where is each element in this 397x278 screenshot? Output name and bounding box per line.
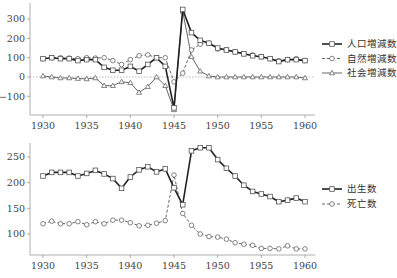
x-tick-label: 1930 — [31, 260, 55, 271]
data-point-marker — [189, 149, 194, 154]
data-point-marker — [84, 171, 89, 176]
data-point-marker — [41, 73, 46, 77]
data-point-marker — [128, 175, 133, 180]
data-point-marker — [163, 167, 168, 172]
x-tick-label: 1940 — [118, 120, 142, 131]
x-tick-label: 1960 — [293, 260, 317, 271]
data-point-marker — [146, 164, 151, 169]
data-point-marker — [242, 242, 247, 247]
data-point-marker — [111, 218, 116, 223]
legend-label: 人口増減数 — [347, 38, 397, 49]
data-point-marker — [268, 246, 273, 251]
data-point-marker — [277, 199, 282, 204]
data-point-marker — [215, 46, 220, 51]
data-point-marker — [242, 183, 247, 188]
y-tick-label: 200 — [7, 33, 25, 44]
data-point-marker — [119, 68, 124, 73]
data-point-marker — [128, 57, 133, 62]
data-point-marker — [294, 247, 299, 252]
data-point-marker — [102, 65, 107, 70]
x-tick-label: 1950 — [206, 260, 230, 271]
data-point-marker — [93, 168, 98, 173]
data-point-marker — [93, 75, 98, 79]
data-point-marker — [259, 54, 264, 59]
data-point-marker — [233, 240, 238, 245]
data-point-marker — [180, 211, 185, 216]
legend-marker — [330, 56, 335, 61]
data-point-marker — [277, 247, 282, 252]
data-point-marker — [67, 170, 72, 175]
data-point-marker — [207, 145, 212, 150]
data-point-marker — [285, 244, 290, 249]
data-point-marker — [294, 196, 299, 201]
data-point-marker — [76, 219, 81, 224]
data-point-marker — [128, 64, 133, 69]
data-point-marker — [172, 106, 177, 111]
y-tick-label: 200 — [7, 177, 25, 188]
legend-label: 自然増減数 — [347, 53, 397, 64]
data-point-marker — [198, 38, 203, 43]
data-point-marker — [67, 221, 72, 226]
bottom-chart: 100150200250 193019351940194519501955196… — [7, 143, 377, 271]
data-point-marker — [180, 7, 185, 12]
data-point-marker — [119, 79, 124, 83]
data-point-marker — [128, 220, 133, 225]
x-tick-label: 1940 — [118, 260, 142, 271]
data-point-marker — [180, 71, 185, 76]
x-tick-label: 1955 — [249, 260, 273, 271]
data-point-marker — [93, 57, 98, 62]
data-point-marker — [277, 59, 282, 64]
x-tick-label: 1955 — [249, 120, 273, 131]
data-point-marker — [84, 57, 89, 62]
data-point-marker — [198, 232, 203, 237]
data-point-marker — [102, 221, 107, 226]
x-tick-label: 1935 — [75, 120, 99, 131]
data-point-marker — [215, 157, 220, 162]
data-point-marker — [268, 56, 273, 61]
data-point-marker — [41, 174, 46, 179]
data-point-marker — [84, 222, 89, 227]
data-point-marker — [224, 48, 229, 53]
data-point-marker — [93, 219, 98, 224]
data-point-marker — [111, 58, 116, 63]
y-tick-label: 100 — [7, 52, 25, 63]
data-point-marker — [76, 58, 81, 63]
data-point-marker — [49, 55, 54, 60]
legend-item: 自然増減数 — [322, 53, 397, 64]
y-tick-label: 300 — [7, 13, 25, 24]
data-point-marker — [41, 56, 46, 61]
y-tick-label: 0 — [19, 71, 25, 82]
legend-marker — [330, 187, 335, 192]
data-point-marker — [285, 198, 290, 203]
data-point-marker — [233, 174, 238, 179]
data-point-marker — [137, 53, 142, 58]
top-legend: 人口増減数自然増減数社会増減数 — [322, 38, 397, 78]
data-point-marker — [146, 223, 151, 228]
data-point-marker — [250, 189, 255, 194]
top-chart: −1000100200300 1930193519401945195019551… — [0, 3, 397, 131]
data-point-marker — [294, 57, 299, 62]
data-point-marker — [285, 57, 290, 62]
data-point-marker — [163, 218, 168, 223]
data-point-marker — [119, 186, 124, 191]
data-point-marker — [49, 219, 54, 224]
data-point-marker — [154, 221, 159, 226]
data-point-marker — [41, 221, 46, 226]
data-point-marker — [242, 52, 247, 57]
data-point-marker — [189, 30, 194, 35]
chart-canvas: −1000100200300 1930193519401945195019551… — [0, 0, 397, 278]
y-tick-label: 150 — [7, 203, 25, 214]
data-point-marker — [189, 48, 194, 53]
legend-item: 人口増減数 — [322, 38, 397, 49]
y-tick-label: 100 — [7, 228, 25, 239]
legend-label: 死亡数 — [347, 198, 377, 209]
data-point-marker — [172, 186, 177, 191]
x-tick-label: 1935 — [75, 260, 99, 271]
data-point-marker — [303, 199, 308, 204]
data-point-marker — [58, 56, 63, 61]
series-circle — [41, 173, 308, 252]
legend-marker — [330, 202, 335, 207]
data-point-marker — [163, 55, 168, 60]
data-point-marker — [250, 243, 255, 248]
data-point-marker — [58, 221, 63, 226]
